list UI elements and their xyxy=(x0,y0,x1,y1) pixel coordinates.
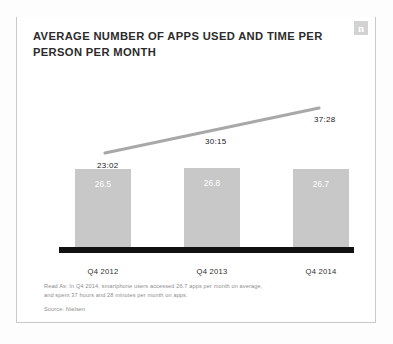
chart-plot-area: 26.5 26.8 26.7 23:02 30:15 37:28 Q4 2012… xyxy=(17,81,375,261)
bar-q4-2013[interactable]: 26.8 xyxy=(184,168,240,248)
bar-value-label: 26.8 xyxy=(184,179,240,188)
x-tick-label-q4-2012: Q4 2012 xyxy=(75,267,131,276)
x-tick-label-q4-2014: Q4 2014 xyxy=(293,267,349,276)
line-value-label-q4-2014: 37:28 xyxy=(314,115,336,124)
chart-card: n AVERAGE NUMBER OF APPS USED AND TIME P… xyxy=(16,17,376,323)
bar-q4-2012[interactable]: 26.5 xyxy=(75,169,131,248)
bar-value-label: 26.5 xyxy=(75,180,131,189)
footnotes: Read As: In Q4 2014, smartphone users ac… xyxy=(44,282,344,315)
read-as-line-1: Read As: In Q4 2014, smartphone users ac… xyxy=(44,282,344,291)
read-as-line-2: and spent 37 hours and 28 minutes per mo… xyxy=(44,291,344,300)
x-axis-bar xyxy=(59,247,354,253)
page-title: AVERAGE NUMBER OF APPS USED AND TIME PER… xyxy=(33,29,343,60)
source-line: Source: Nielsen xyxy=(44,305,344,314)
line-value-label-q4-2013: 30:15 xyxy=(205,137,227,146)
line-value-label-q4-2012: 23:02 xyxy=(97,161,119,170)
x-tick-label-q4-2013: Q4 2013 xyxy=(184,267,240,276)
bar-value-label: 26.7 xyxy=(293,180,349,189)
nielsen-logo-icon: n xyxy=(354,21,368,35)
bar-q4-2014[interactable]: 26.7 xyxy=(293,169,349,248)
page-background: n AVERAGE NUMBER OF APPS USED AND TIME P… xyxy=(0,0,393,344)
